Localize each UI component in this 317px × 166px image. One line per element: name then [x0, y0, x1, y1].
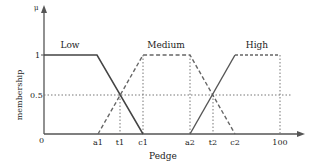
y-axis-arrow	[41, 5, 47, 13]
x-tick-c1: c1	[138, 138, 148, 147]
x-tick-a1: a1	[93, 138, 103, 147]
x-tick-c2: c2	[230, 138, 240, 147]
x-tick-t1: t1	[116, 138, 124, 147]
y-axis-label: membership	[15, 70, 24, 121]
y-tick-label-1: 1	[35, 51, 40, 60]
legend-high: High	[246, 40, 268, 50]
x-tick-t2: t2	[209, 138, 217, 147]
mu-symbol: μ	[34, 4, 39, 12]
legend-low: Low	[60, 40, 79, 50]
x-axis-arrow	[297, 131, 305, 137]
x-tick-100: 100	[272, 138, 287, 147]
y-tick-label-0-5: 0.5	[30, 91, 43, 100]
x-tick-a2: a2	[185, 138, 195, 147]
x-axis-label: Pedge	[149, 151, 177, 161]
membership-chart: μ membership 1 0.5 0 a1 t1 c1 a2 t2 c2 1…	[0, 0, 317, 166]
legend-medium: Medium	[147, 40, 185, 50]
origin-label: 0	[39, 136, 44, 145]
